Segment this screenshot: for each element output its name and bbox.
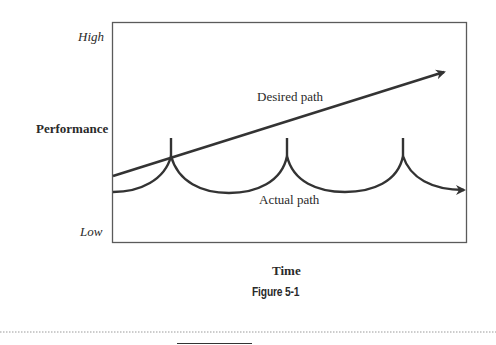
- y-tick-low: Low: [80, 224, 102, 240]
- chart-canvas: [0, 0, 496, 345]
- actual-path-curve: [113, 156, 464, 193]
- desired-path-line: [113, 72, 444, 176]
- actual-path-label: Actual path: [259, 192, 319, 208]
- figure-caption: Figure 5-1: [252, 285, 299, 299]
- x-axis-label: Time: [272, 263, 301, 279]
- figure-5-1: High Low Performance Desired path Actual…: [0, 0, 496, 345]
- chart-frame: [113, 23, 467, 243]
- y-tick-high: High: [78, 29, 104, 45]
- desired-path-label: Desired path: [257, 89, 323, 105]
- y-axis-label: Performance: [36, 121, 108, 137]
